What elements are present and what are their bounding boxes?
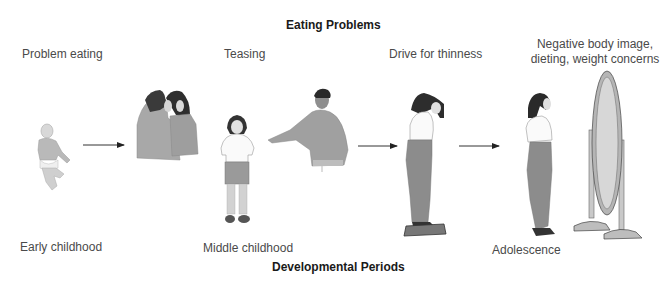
girl-at-mirror-illustration <box>526 93 555 236</box>
infant-illustration <box>38 124 70 190</box>
girl-on-scale-illustration <box>404 93 446 236</box>
illustration-canvas <box>0 0 668 284</box>
girl-standing-illustration <box>221 115 254 223</box>
two-girls-whispering-illustration <box>137 90 198 160</box>
standing-mirror-illustration <box>574 71 642 239</box>
man-pointing-illustration <box>268 89 348 172</box>
